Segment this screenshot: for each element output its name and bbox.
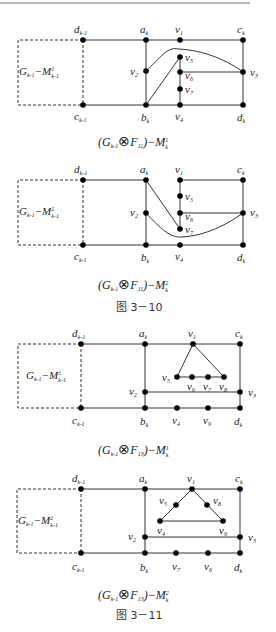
svg-text:v7: v7	[203, 380, 212, 393]
svg-text:ck-1: ck-1	[74, 250, 87, 263]
svg-text:bk: bk	[141, 251, 150, 264]
diagram-3: dk-1 ak v1 ck ck-1 bk v4 v9 dk v2 v3 v5 …	[18, 327, 256, 458]
svg-text:v2: v2	[128, 530, 136, 543]
edge-v1-v5	[177, 344, 193, 377]
figure-label: 图 3－10	[116, 301, 163, 314]
svg-text:v8: v8	[213, 494, 221, 507]
svg-text:bk: bk	[141, 111, 150, 124]
svg-text:v6: v6	[204, 560, 212, 573]
svg-text:v3: v3	[250, 206, 258, 219]
svg-text:v5: v5	[185, 51, 193, 64]
svg-text:v3: v3	[248, 386, 256, 399]
svg-text:v2: v2	[129, 385, 137, 398]
vertex-labels: dk-1 ak v1 ck ck-1 bk v7 v6 dk v2 v3 v5 …	[72, 472, 256, 574]
edge-v2-v3-curve	[146, 213, 243, 237]
svg-text:v5: v5	[159, 494, 167, 507]
svg-text:v5: v5	[185, 190, 193, 203]
svg-text:v2: v2	[130, 206, 138, 219]
svg-text:v7: v7	[185, 223, 194, 236]
diagram-4: dk-1 ak v1 ck ck-1 bk v7 v6 dk v2 v3 v5 …	[17, 472, 256, 622]
svg-text:v4: v4	[175, 110, 183, 123]
svg-text:ak: ak	[140, 23, 149, 36]
svg-text:v4: v4	[175, 250, 183, 263]
box-label: Gk-1−M2k-1	[19, 205, 59, 219]
svg-text:v3: v3	[248, 531, 256, 544]
svg-text:v1: v1	[187, 472, 195, 485]
svg-text:bk: bk	[140, 415, 149, 428]
svg-text:v6: v6	[185, 210, 193, 223]
svg-text:dk-1: dk-1	[74, 163, 87, 176]
edge-v1-v8	[193, 344, 224, 377]
box-label: Gk-1−M1k-1	[19, 65, 59, 79]
box-label: Gk-1−M1k-1	[26, 369, 66, 383]
vertex-labels: dk-1 ak v1 ck ck-1 bk v4 v9 dk v2 v3 v5 …	[72, 327, 256, 428]
svg-text:v1: v1	[175, 23, 183, 36]
figure-canvas: dk-1 ak v1 ck ck-1 bk v4 dk v2 v5 v6 v7 …	[0, 0, 276, 632]
svg-text:dk: dk	[234, 415, 243, 428]
svg-text:dk: dk	[237, 111, 246, 124]
svg-text:ck: ck	[237, 163, 245, 176]
svg-text:ck-1: ck-1	[72, 560, 85, 573]
svg-text:ck: ck	[237, 23, 245, 36]
svg-text:ck: ck	[235, 327, 243, 340]
svg-text:v7: v7	[172, 560, 181, 573]
svg-text:ck-1: ck-1	[74, 110, 87, 123]
edge-ak-v7	[146, 180, 180, 229]
svg-text:v5: v5	[162, 371, 170, 384]
svg-text:v9: v9	[219, 524, 227, 537]
caption: (Gk-1⊗F11)−M2k	[98, 277, 168, 293]
svg-text:v4: v4	[157, 524, 165, 537]
svg-text:dk: dk	[237, 251, 246, 264]
box-label: Gk-1−M2k-1	[18, 514, 58, 528]
svg-text:dk-1: dk-1	[72, 472, 85, 485]
svg-text:dk-1: dk-1	[74, 23, 87, 36]
svg-text:ck-1: ck-1	[72, 414, 85, 427]
svg-text:v1: v1	[188, 327, 196, 340]
caption: (Gk-1⊗F11)−M1k	[98, 134, 168, 150]
svg-text:v6: v6	[185, 69, 193, 82]
svg-text:ak: ak	[140, 163, 149, 176]
svg-text:ak: ak	[139, 472, 148, 485]
svg-text:dk-1: dk-1	[72, 327, 85, 340]
diagram-2: dk-1 ak v1 ck ck-1 bk v4 dk v2 v5 v6 v7 …	[18, 163, 258, 314]
svg-text:v7: v7	[185, 83, 194, 96]
svg-text:v3: v3	[250, 66, 258, 79]
svg-text:bk: bk	[140, 561, 149, 574]
svg-text:ak: ak	[139, 327, 148, 340]
edge-bk-v5	[146, 57, 180, 105]
edge-v2-v3-curve	[146, 49, 243, 72]
diagram-1: dk-1 ak v1 ck ck-1 bk v4 dk v2 v5 v6 v7 …	[18, 23, 258, 150]
svg-text:v1: v1	[175, 163, 183, 176]
svg-text:dk: dk	[234, 561, 243, 574]
vertices	[78, 341, 243, 411]
svg-text:v9: v9	[203, 414, 211, 427]
svg-text:v4: v4	[172, 414, 180, 427]
vertex-labels: dk-1 ak v1 ck ck-1 bk v4 dk v2 v5 v6 v7 …	[74, 23, 258, 124]
svg-text:v2: v2	[130, 65, 138, 78]
caption: (Gk-1⊗F13)−M1k	[98, 442, 169, 458]
svg-text:v8: v8	[219, 380, 227, 393]
svg-text:v6: v6	[187, 380, 195, 393]
figure-label: 图 3－11	[116, 609, 163, 622]
caption: (Gk-1⊗F13)−M2k	[98, 587, 169, 603]
svg-text:ck: ck	[235, 472, 243, 485]
